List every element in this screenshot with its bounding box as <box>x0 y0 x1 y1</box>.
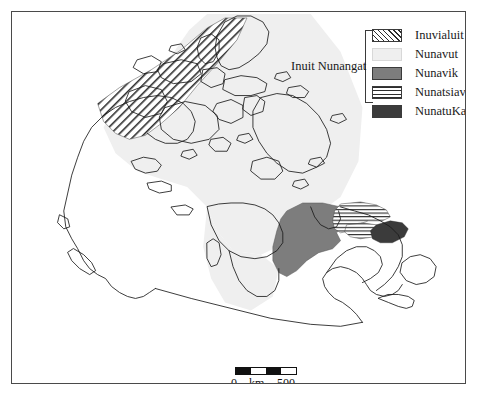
scalebar-segment-3 <box>266 368 281 374</box>
legend-label-nunavik: Nunavik <box>415 67 458 80</box>
map-frame: Inuit Nunangat Inuvialuit Nunavut Nunavi… <box>11 11 466 384</box>
legend-swatch-nunavut <box>372 48 402 61</box>
scalebar-graphic <box>235 367 297 375</box>
scalebar-unit-label: km <box>249 376 264 384</box>
legend-label-inuvialuit: Inuvialuit <box>415 29 464 42</box>
legend-swatch-inuvialuit <box>372 29 402 42</box>
scalebar-segment-1 <box>236 368 251 374</box>
scalebar-max-label: 500 <box>277 376 295 384</box>
scalebar-segment-4 <box>281 368 296 374</box>
scalebar-segment-2 <box>251 368 266 374</box>
legend-swatch-nunavik <box>372 67 402 80</box>
legend-group-label: Inuit Nunangat <box>291 59 363 74</box>
map-scalebar: 0 km 500 <box>221 367 317 384</box>
map-figure: Inuit Nunangat Inuvialuit Nunavut Nunavi… <box>0 0 478 409</box>
legend-label-nunavut: Nunavut <box>415 48 458 61</box>
legend-item-nunatsiavut[interactable]: Nunatsiavut <box>372 83 466 102</box>
scalebar-labels: 0 km 500 <box>221 376 317 384</box>
legend-item-nunavut[interactable]: Nunavut <box>372 45 458 64</box>
legend-item-inuvialuit[interactable]: Inuvialuit <box>372 26 464 45</box>
figure-caption-sliver <box>12 399 464 409</box>
legend-item-nunavik[interactable]: Nunavik <box>372 64 458 83</box>
map-legend: Inuit Nunangat Inuvialuit Nunavut Nunavi… <box>291 26 466 130</box>
scalebar-zero-label: 0 <box>231 376 237 384</box>
legend-label-nunatukavut: NunatuKavut <box>415 105 466 118</box>
legend-item-nunatukavut[interactable]: NunatuKavut <box>372 102 466 121</box>
legend-swatch-nunatukavut <box>372 105 402 118</box>
region-nunatukavut <box>370 221 408 243</box>
legend-label-nunatsiavut: Nunatsiavut <box>415 86 466 99</box>
legend-swatch-nunatsiavut <box>372 86 402 99</box>
